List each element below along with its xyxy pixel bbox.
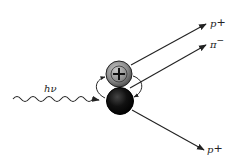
pion-minus-arrow: [130, 45, 206, 88]
neutron-sphere: [107, 88, 134, 115]
right-exchange-arrow: [133, 76, 142, 97]
proton-sphere: [106, 61, 132, 87]
photon-label: hν: [44, 83, 57, 94]
proton-top-label: p+: [210, 16, 226, 29]
photon-wave: [13, 97, 99, 102]
proton-bottom-label: p+: [207, 142, 223, 155]
proton-top-arrow: [131, 24, 206, 65]
photoproduction-diagram: hν p+ π− p+: [0, 0, 241, 162]
proton-bottom-arrow: [132, 110, 204, 150]
left-exchange-arrow: [96, 77, 105, 98]
pion-minus-label: π−: [209, 35, 224, 50]
